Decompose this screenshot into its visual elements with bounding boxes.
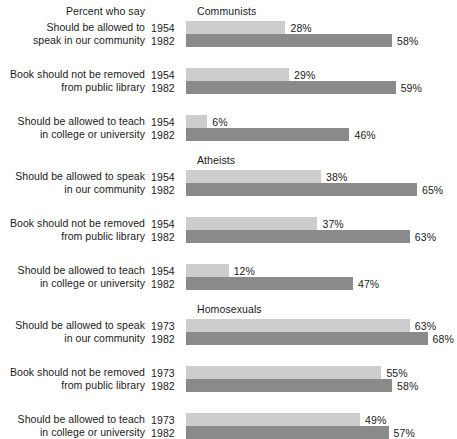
year-label: 1954 bbox=[151, 265, 181, 277]
bar-value-label: 63% bbox=[415, 320, 436, 332]
row-label: Should be allowed tospeak in our communi… bbox=[0, 21, 145, 47]
row-label-line-2: in our community bbox=[0, 183, 145, 196]
year-label: 1982 bbox=[151, 333, 181, 345]
bar bbox=[186, 34, 392, 47]
bar-value-label: 47% bbox=[358, 278, 379, 290]
row-label-line-2: in college or university bbox=[0, 128, 145, 141]
row-label-line-1: Book should not be removed bbox=[10, 366, 145, 378]
bar-value-label: 65% bbox=[422, 184, 443, 196]
row-label: Book should not be removedfrom public li… bbox=[0, 68, 145, 94]
row-label-line-1: Should be allowed to bbox=[47, 21, 146, 33]
year-label: 1982 bbox=[151, 129, 181, 141]
year-label: 1973 bbox=[151, 367, 181, 379]
bar bbox=[186, 21, 285, 34]
row-label: Should be allowed to teachin college or … bbox=[0, 115, 145, 141]
row-label-line-1: Should be allowed to teach bbox=[18, 264, 145, 276]
bar-value-label: 59% bbox=[401, 82, 422, 94]
row-label: Book should not be removedfrom public li… bbox=[0, 366, 145, 392]
year-label: 1954 bbox=[151, 171, 181, 183]
row-label-line-2: from public library bbox=[0, 379, 145, 392]
row-label-line-1: Should be allowed to teach bbox=[18, 115, 145, 127]
row-label-line-1: Book should not be removed bbox=[10, 68, 145, 80]
bar-value-label: 68% bbox=[433, 333, 454, 345]
year-label: 1982 bbox=[151, 427, 181, 439]
row-label-line-1: Should be allowed to speak bbox=[15, 319, 145, 331]
bar-value-label: 38% bbox=[326, 171, 347, 183]
row-label-line-2: from public library bbox=[0, 230, 145, 243]
bar-value-label: 6% bbox=[212, 116, 227, 128]
group-title-atheists: Atheists bbox=[197, 154, 235, 166]
bar-value-label: 12% bbox=[234, 265, 255, 277]
bar bbox=[186, 170, 321, 183]
bar-value-label: 58% bbox=[397, 380, 418, 392]
year-label: 1973 bbox=[151, 320, 181, 332]
bar-value-label: 57% bbox=[394, 427, 415, 439]
bar bbox=[186, 319, 410, 332]
group-title-homosexuals: Homosexuals bbox=[197, 303, 262, 315]
bar bbox=[186, 183, 417, 196]
bar bbox=[186, 264, 229, 277]
row-label-line-1: Book should not be removed bbox=[10, 217, 145, 229]
year-label: 1982 bbox=[151, 35, 181, 47]
year-label: 1954 bbox=[151, 218, 181, 230]
bar-value-label: 63% bbox=[415, 231, 436, 243]
row-label-line-2: in college or university bbox=[0, 277, 145, 290]
bar-value-label: 58% bbox=[397, 35, 418, 47]
row-label: Should be allowed to teachin college or … bbox=[0, 413, 145, 439]
group-title-communists: Communists bbox=[197, 5, 256, 17]
bar-value-label: 46% bbox=[354, 129, 375, 141]
year-label: 1954 bbox=[151, 116, 181, 128]
year-label: 1982 bbox=[151, 380, 181, 392]
year-label: 1982 bbox=[151, 231, 181, 243]
bar bbox=[186, 217, 317, 230]
year-label: 1982 bbox=[151, 184, 181, 196]
row-label: Should be allowed to speakin our communi… bbox=[0, 170, 145, 196]
bar bbox=[186, 413, 360, 426]
year-label: 1954 bbox=[151, 22, 181, 34]
bar bbox=[186, 379, 392, 392]
row-label: Book should not be removedfrom public li… bbox=[0, 217, 145, 243]
bar bbox=[186, 128, 349, 141]
bar-value-label: 28% bbox=[290, 22, 311, 34]
bar bbox=[186, 81, 396, 94]
year-label: 1973 bbox=[151, 414, 181, 426]
bar bbox=[186, 426, 389, 439]
year-label: 1982 bbox=[151, 82, 181, 94]
row-label-line-1: Should be allowed to speak bbox=[15, 170, 145, 182]
bar-value-label: 55% bbox=[386, 367, 407, 379]
row-label-line-2: from public library bbox=[0, 81, 145, 94]
bar bbox=[186, 115, 207, 128]
year-label: 1954 bbox=[151, 69, 181, 81]
bar bbox=[186, 332, 428, 345]
bar bbox=[186, 277, 353, 290]
bar-value-label: 49% bbox=[365, 414, 386, 426]
bar-value-label: 29% bbox=[294, 69, 315, 81]
bar bbox=[186, 68, 289, 81]
row-label-line-2: in our community bbox=[0, 332, 145, 345]
bar bbox=[186, 230, 410, 243]
row-label-line-2: speak in our community bbox=[0, 34, 145, 47]
bar-value-label: 37% bbox=[322, 218, 343, 230]
year-label: 1982 bbox=[151, 278, 181, 290]
row-label: Should be allowed to teachin college or … bbox=[0, 264, 145, 290]
bar bbox=[186, 366, 381, 379]
chart-header-note: Percent who say bbox=[0, 5, 145, 17]
row-label: Should be allowed to speakin our communi… bbox=[0, 319, 145, 345]
row-label-line-2: in college or university bbox=[0, 426, 145, 439]
row-label-line-1: Should be allowed to teach bbox=[18, 413, 145, 425]
